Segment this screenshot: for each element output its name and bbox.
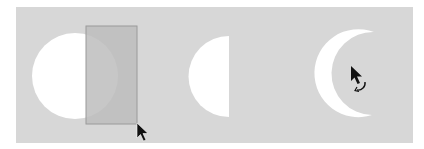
half-circle-shape[interactable]	[189, 36, 230, 117]
shapes-layer	[0, 0, 424, 149]
illustration-stage	[0, 0, 424, 149]
selection-rectangle[interactable]	[86, 26, 137, 124]
arrow-cursor-icon	[137, 123, 148, 141]
crescent-shape[interactable]	[314, 29, 374, 117]
rotate-cursor-icon	[351, 66, 365, 92]
